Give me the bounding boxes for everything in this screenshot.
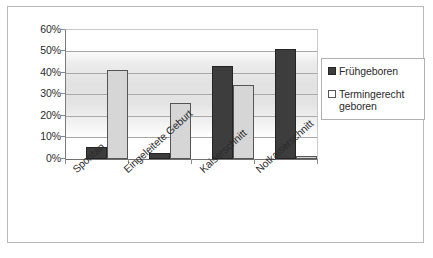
legend-item-fruehgeboren: Frühgeboren [328,65,419,77]
plot-area [65,29,318,159]
chart-frame: 60% 50% 40% 30% 20% 10% 0% Spontan Einge… [7,6,424,243]
y-tick-mark-50 [61,50,65,51]
chart-legend: Frühgeboren Termingerecht geboren [321,58,425,120]
legend-swatch-icon-termingerecht-geboren [328,90,336,98]
x-tick-sep-0 [65,159,66,164]
y-tick-label-10: 10% [13,131,61,141]
y-tick-label-20: 20% [13,110,61,120]
y-tick-label-40: 40% [13,67,61,77]
legend-item-termingerecht-geboren: Termingerecht geboren [328,88,419,112]
legend-swatch-icon-fruehgeboren [328,67,336,75]
y-tick-mark-30 [61,93,65,94]
bar-kaiserschnitt-termingerecht [233,85,254,159]
y-tick-mark-10 [61,136,65,137]
y-tick-label-0: 0% [13,153,61,163]
y-tick-mark-40 [61,72,65,73]
y-axis: 60% 50% 40% 30% 20% 10% 0% [8,7,61,258]
bar-spontan-termingerecht [107,70,128,159]
x-tick-sep-4 [317,159,318,164]
y-tick-label-50: 50% [13,45,61,55]
y-tick-label-60: 60% [13,24,61,34]
legend-label-fruehgeboren: Frühgeboren [339,65,398,77]
y-tick-mark-20 [61,115,65,116]
x-tick-sep-2 [191,159,192,164]
legend-label-termingerecht-geboren: Termingerecht geboren [339,88,419,112]
y-tick-mark-60 [61,29,65,30]
y-tick-label-30: 30% [13,88,61,98]
